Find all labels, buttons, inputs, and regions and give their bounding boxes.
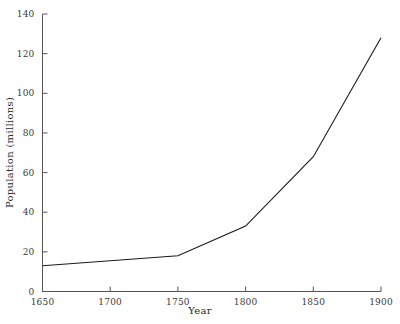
- plot-canvas: [0, 0, 400, 324]
- y-axis-title-wrap: Population (millions): [2, 0, 18, 305]
- data-series-group: [43, 38, 382, 266]
- population-line: [43, 38, 382, 266]
- x-axis-title: Year: [0, 305, 400, 316]
- x-tick-marks: [43, 287, 382, 292]
- axis-lines: [42, 14, 381, 292]
- y-axis-title: Population (millions): [5, 97, 16, 208]
- line-chart-figure: 020406080100120140 165017001750180018501…: [0, 0, 400, 324]
- y-tick-marks: [43, 14, 48, 292]
